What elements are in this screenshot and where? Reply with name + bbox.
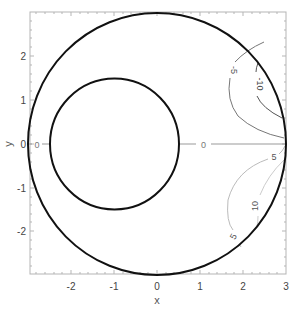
y-tick-label: -1 bbox=[17, 183, 26, 194]
x-axis-label: x bbox=[154, 294, 160, 306]
contour-label-pos5-bottom: 5 bbox=[228, 232, 239, 241]
contour-label-zero-right: 0 bbox=[201, 140, 206, 150]
contour-label-zero-left: 0 bbox=[34, 140, 39, 150]
contour-label-neg5: -5 bbox=[229, 66, 239, 74]
x-tick-label: 3 bbox=[283, 281, 289, 292]
x-tick-label: 0 bbox=[154, 281, 160, 292]
contour-pos10 bbox=[257, 160, 284, 226]
x-tick-label: -2 bbox=[67, 281, 76, 292]
contour-label-pos5-top: 5 bbox=[271, 152, 276, 162]
x-tick-label: 1 bbox=[197, 281, 203, 292]
y-tick-label: 0 bbox=[20, 139, 26, 150]
x-tick-label: 2 bbox=[240, 281, 246, 292]
contour-label-neg10: -10 bbox=[255, 77, 265, 90]
y-tick-label: -2 bbox=[17, 226, 26, 237]
y-tick-label: 1 bbox=[20, 95, 26, 106]
inner-boundary-circle bbox=[50, 79, 179, 210]
y-axis-label: y bbox=[2, 141, 14, 147]
x-tick-label: -1 bbox=[110, 281, 119, 292]
contour-plot: 0 0 -5 -10 5 5 10 -2 -1 0 1 2 3 2 1 0 -1… bbox=[0, 0, 296, 309]
y-tick-label: 2 bbox=[20, 51, 26, 62]
contour-label-pos10: 10 bbox=[250, 201, 260, 211]
